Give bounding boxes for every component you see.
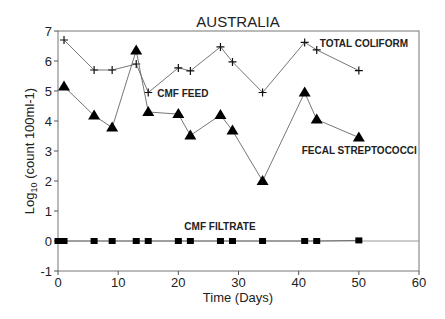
series-fecal-streptococci (58, 45, 365, 186)
axes: -1012345670102030405060 (40, 24, 426, 290)
series-annotation: CMF FEED (157, 88, 208, 99)
series-annotation: FECAL STREPTOCOCCI (302, 145, 417, 156)
square-marker (133, 238, 140, 244)
x-tick-label: 0 (54, 275, 61, 290)
triangle-marker (257, 175, 269, 185)
plus-marker (186, 67, 194, 75)
triangle-marker (214, 109, 226, 119)
y-tick-label: 0 (45, 234, 52, 249)
triangle-marker (130, 45, 142, 55)
y-tick-label: 6 (45, 54, 52, 69)
series-annotation: CMF FILTRATE (184, 221, 256, 232)
triangle-marker (106, 122, 118, 132)
triangle-marker (58, 81, 70, 91)
y-tick-label: -1 (40, 264, 52, 279)
chart-title: AUSTRALIA (196, 13, 279, 30)
annotations: TOTAL COLIFORMCMF FEEDFECAL STREPTOCOCCI… (157, 38, 417, 232)
square-marker (259, 238, 266, 244)
x-tick-label: 60 (412, 275, 426, 290)
y-axis-label: Log10 (count 100ml-1) (22, 88, 39, 214)
y-tick-label: 7 (45, 24, 52, 39)
x-tick-label: 20 (171, 275, 185, 290)
chart: AUSTRALIA Time (Days) Log10 (count 100ml… (0, 0, 445, 319)
triangle-marker (353, 132, 365, 142)
square-marker (301, 238, 308, 244)
x-tick-label: 10 (111, 275, 125, 290)
x-tick-label: 40 (291, 275, 305, 290)
y-tick-label: 2 (45, 174, 52, 189)
plus-marker (355, 67, 363, 75)
plus-marker (108, 66, 116, 74)
triangle-marker (172, 108, 184, 118)
y-tick-label: 4 (45, 114, 52, 129)
chart-canvas: AUSTRALIA Time (Days) Log10 (count 100ml… (0, 0, 445, 319)
series-annotation: TOTAL COLIFORM (320, 38, 408, 49)
square-marker (217, 238, 224, 244)
triangle-marker (299, 87, 311, 97)
y-tick-label: 1 (45, 204, 52, 219)
square-marker (355, 237, 362, 243)
triangle-marker (226, 125, 238, 135)
square-marker (145, 238, 152, 244)
series-total-coliform (60, 36, 363, 97)
triangle-marker (184, 129, 196, 139)
triangle-marker (142, 106, 154, 116)
x-tick-label: 50 (352, 275, 366, 290)
x-axis-label: Time (Days) (203, 290, 273, 305)
series-cmf-filtrate (55, 237, 363, 244)
square-marker (175, 238, 182, 244)
square-marker (91, 238, 98, 244)
series-line (64, 40, 359, 93)
square-marker (229, 238, 236, 244)
y-tick-label: 3 (45, 144, 52, 159)
triangle-marker (311, 114, 323, 124)
square-marker (313, 238, 320, 244)
x-tick-label: 30 (231, 275, 245, 290)
y-tick-label: 5 (45, 84, 52, 99)
plot-area (55, 36, 365, 244)
square-marker (109, 238, 116, 244)
square-marker (187, 238, 194, 244)
square-marker (61, 238, 68, 244)
